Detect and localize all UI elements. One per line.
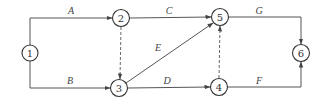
dummy-edge-4-5 <box>219 26 220 78</box>
node-label-5: 5 <box>217 12 223 23</box>
node-3: 3 <box>111 80 128 97</box>
activity-network-diagram: A B C D E F G 1 2 3 <box>0 0 327 102</box>
edge-G: G <box>229 5 301 44</box>
edge-E: E <box>126 23 213 83</box>
node-label-3: 3 <box>116 83 122 94</box>
node-5: 5 <box>212 9 229 26</box>
node-2: 2 <box>113 10 130 27</box>
edge-B: B <box>30 61 110 88</box>
edge-label-A: A <box>67 5 75 16</box>
node-label-2: 2 <box>118 13 124 24</box>
node-label-4: 4 <box>216 82 222 93</box>
edge-label-G: G <box>255 5 262 16</box>
edge-C: C <box>130 5 211 18</box>
edge-label-D: D <box>162 75 171 86</box>
edge-A: A <box>30 5 112 45</box>
edge-F: F <box>228 62 301 87</box>
edge-label-B: B <box>67 75 73 86</box>
edge-label-C: C <box>166 5 173 16</box>
edge-label-E: E <box>154 42 161 53</box>
node-6: 6 <box>293 45 310 62</box>
edge-label-F: F <box>255 75 263 86</box>
dummy-edge-2-3 <box>120 27 121 79</box>
node-label-6: 6 <box>298 48 304 59</box>
node-label-1: 1 <box>27 48 33 59</box>
node-4: 4 <box>211 79 228 96</box>
node-1: 1 <box>22 45 38 61</box>
edge-D: D <box>128 75 210 88</box>
